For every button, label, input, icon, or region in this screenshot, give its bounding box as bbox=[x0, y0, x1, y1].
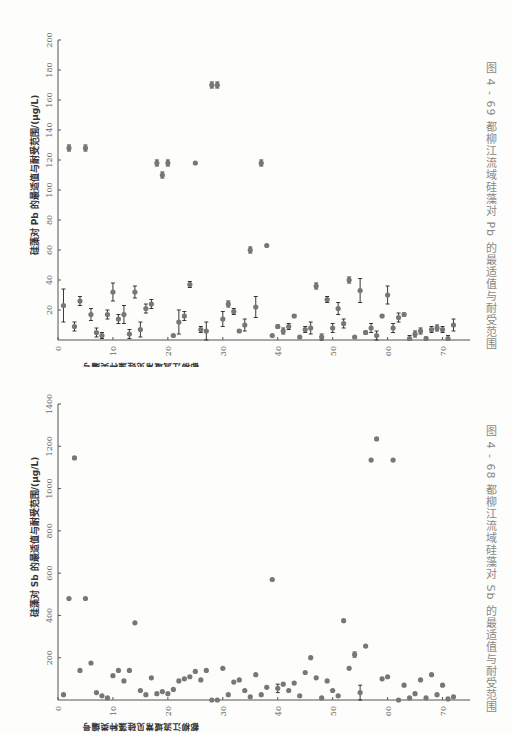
y-tick-label: 140 bbox=[45, 122, 54, 137]
data-point bbox=[204, 328, 209, 333]
y-tick-label: 80 bbox=[45, 215, 54, 225]
data-point bbox=[105, 695, 110, 700]
x-tick-label: 10 bbox=[109, 706, 118, 716]
data-point bbox=[330, 688, 335, 693]
data-point bbox=[418, 677, 423, 682]
data-point bbox=[215, 82, 220, 87]
data-point bbox=[110, 673, 115, 678]
y-tick-label: 60 bbox=[45, 245, 54, 255]
data-point bbox=[308, 655, 313, 660]
x-tick-label: 30 bbox=[219, 346, 228, 356]
data-point bbox=[121, 312, 126, 317]
data-point bbox=[297, 693, 302, 698]
data-point bbox=[187, 282, 192, 287]
data-point bbox=[171, 333, 176, 338]
data-point bbox=[143, 692, 148, 697]
data-point bbox=[198, 327, 203, 332]
data-point bbox=[187, 674, 192, 679]
data-point bbox=[401, 683, 406, 688]
x-tick-label: 60 bbox=[384, 706, 393, 716]
data-point bbox=[281, 682, 286, 687]
data-point bbox=[385, 292, 390, 297]
data-point bbox=[303, 670, 308, 675]
data-point bbox=[231, 309, 236, 314]
data-point bbox=[149, 675, 154, 680]
x-tick-label: 70 bbox=[439, 346, 448, 356]
data-point bbox=[319, 334, 324, 339]
data-point bbox=[204, 668, 209, 673]
x-tick-label: 0 bbox=[54, 706, 63, 711]
y-tick-label: 120 bbox=[45, 152, 54, 167]
data-point bbox=[154, 691, 159, 696]
y-tick-label: 1000 bbox=[45, 478, 54, 498]
data-point bbox=[314, 675, 319, 680]
data-point bbox=[220, 666, 225, 671]
data-point bbox=[275, 324, 280, 329]
y-tick-label: 800 bbox=[45, 523, 54, 538]
data-point bbox=[116, 316, 121, 321]
data-point bbox=[209, 82, 214, 87]
data-point bbox=[88, 660, 93, 665]
data-point bbox=[380, 313, 385, 318]
data-point bbox=[237, 677, 242, 682]
data-point bbox=[451, 322, 456, 327]
data-point bbox=[132, 620, 137, 625]
data-point bbox=[440, 683, 445, 688]
x-tick-label: 70 bbox=[439, 706, 448, 716]
y-tick-label: 180 bbox=[45, 62, 54, 77]
x-tick-label: 50 bbox=[329, 346, 338, 356]
data-point bbox=[347, 277, 352, 282]
data-point bbox=[165, 691, 170, 696]
data-point bbox=[127, 331, 132, 336]
x-tick-label: 0 bbox=[54, 346, 63, 351]
data-point bbox=[149, 301, 154, 306]
data-point bbox=[61, 692, 66, 697]
y-tick-label: 400 bbox=[45, 608, 54, 623]
y-axis-title: 硅藻对 Pb 的最适值与耐受范围/(μg/L) bbox=[29, 95, 40, 256]
data-point bbox=[176, 678, 181, 683]
x-tick-label: 40 bbox=[274, 346, 283, 356]
y-tick-label: 600 bbox=[45, 566, 54, 581]
data-point bbox=[231, 679, 236, 684]
figure-caption-sb: 图 4 - 68 都柳江流域硅藻对 Sb 的最适值与耐受范围 bbox=[478, 425, 498, 713]
data-point bbox=[94, 690, 99, 695]
data-point bbox=[264, 243, 269, 248]
data-point bbox=[434, 325, 439, 330]
data-point bbox=[374, 333, 379, 338]
data-point bbox=[242, 688, 247, 693]
data-point bbox=[347, 666, 352, 671]
data-point bbox=[440, 327, 445, 332]
data-point bbox=[341, 321, 346, 326]
data-point bbox=[412, 331, 417, 336]
data-point bbox=[314, 283, 319, 288]
data-point bbox=[275, 686, 280, 691]
data-point bbox=[83, 145, 88, 150]
data-point bbox=[94, 330, 99, 335]
data-point bbox=[127, 668, 132, 673]
data-point bbox=[66, 596, 71, 601]
data-point bbox=[286, 688, 291, 693]
y-tick-label: 40 bbox=[45, 275, 54, 285]
data-point bbox=[105, 312, 110, 317]
y-tick-label: 160 bbox=[45, 92, 54, 107]
y-axis-title: 硅藻对 Sb 的最适值与耐受范围/(μg/L) bbox=[29, 457, 40, 618]
y-tick-label: 1200 bbox=[45, 436, 54, 456]
data-point bbox=[99, 333, 104, 338]
data-point bbox=[418, 328, 423, 333]
data-point bbox=[176, 319, 181, 324]
data-point bbox=[160, 689, 165, 694]
data-point bbox=[72, 324, 77, 329]
data-point bbox=[215, 697, 220, 702]
data-point bbox=[242, 322, 247, 327]
data-point bbox=[358, 690, 363, 695]
data-point bbox=[171, 687, 176, 692]
x-tick-label: 20 bbox=[164, 706, 173, 716]
data-point bbox=[325, 678, 330, 683]
data-point bbox=[451, 694, 456, 699]
data-point bbox=[226, 692, 231, 697]
data-point bbox=[390, 325, 395, 330]
data-point bbox=[358, 288, 363, 293]
data-point bbox=[77, 668, 82, 673]
data-point bbox=[396, 315, 401, 320]
figure-caption-pb: 图 4 - 69 都柳江流域硅藻对 Pb 的最适值与耐受范围 bbox=[478, 62, 498, 350]
